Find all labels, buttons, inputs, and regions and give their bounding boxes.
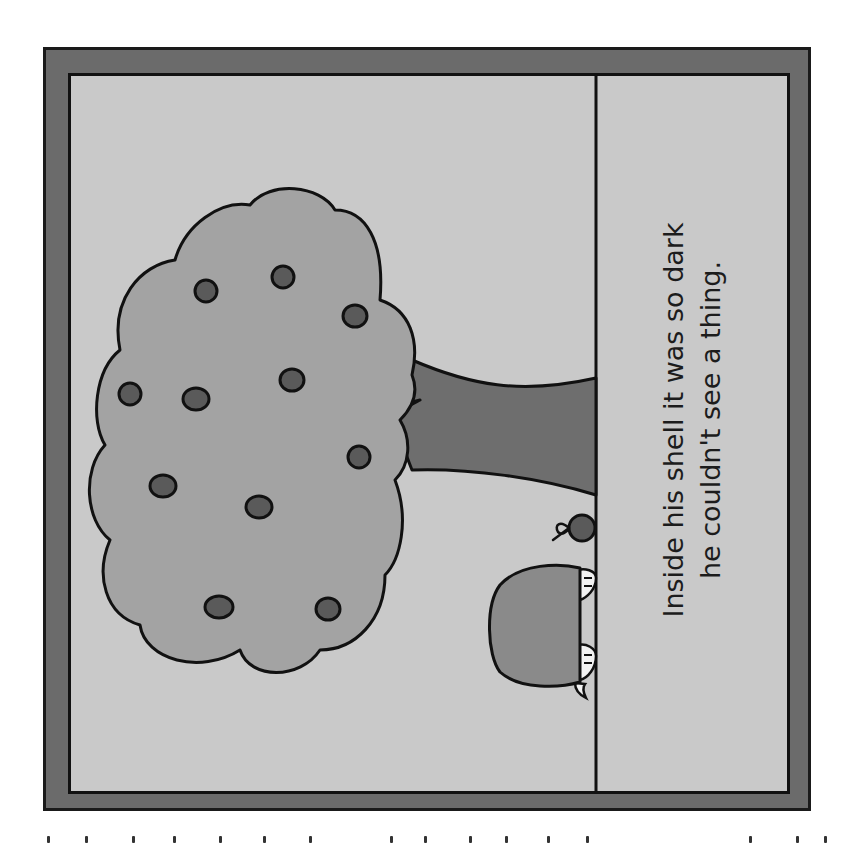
tick-mark xyxy=(505,836,508,843)
tick-mark xyxy=(219,836,222,843)
fruit-icon xyxy=(205,596,233,618)
tick-mark xyxy=(390,836,393,843)
tree-trunk xyxy=(392,360,596,495)
tick-mark xyxy=(47,836,50,843)
caption-text: Inside his shell it was so dark he could… xyxy=(655,220,745,620)
tick-mark xyxy=(824,836,827,843)
fruit-icon xyxy=(119,383,141,405)
tick-mark xyxy=(263,836,266,843)
fruit-icon xyxy=(272,266,294,288)
fruit-icon xyxy=(343,305,367,327)
apple-icon xyxy=(553,515,595,541)
tick-mark xyxy=(796,836,799,843)
fruit-icon xyxy=(183,388,209,410)
caption-line-1: Inside his shell it was so dark xyxy=(655,220,692,620)
registration-ticks xyxy=(0,832,858,848)
turtle-shell xyxy=(489,565,580,686)
fruit-icon xyxy=(246,496,272,518)
tick-mark xyxy=(586,836,589,843)
tick-mark xyxy=(173,836,176,843)
fruit-icon xyxy=(348,446,370,468)
caption-line-2: he couldn't see a thing. xyxy=(692,220,729,620)
tick-mark xyxy=(424,836,427,843)
tick-mark xyxy=(469,836,472,843)
fruit-icon xyxy=(150,475,176,497)
fruit-icon xyxy=(316,598,340,620)
tick-mark xyxy=(547,836,550,843)
fruit-icon xyxy=(195,280,217,302)
tick-mark xyxy=(85,836,88,843)
tick-mark xyxy=(749,836,752,843)
book-page: Inside his shell it was so dark he could… xyxy=(0,0,858,848)
tick-mark xyxy=(132,836,135,843)
tick-mark xyxy=(309,836,312,843)
tree-canopy xyxy=(89,189,415,673)
fruit-icon xyxy=(280,369,304,391)
